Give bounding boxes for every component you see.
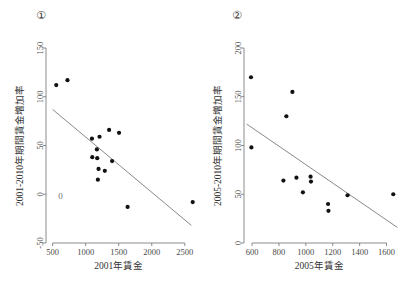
- y-tick-label: 0: [35, 192, 45, 196]
- y-tick-label: 50: [35, 141, 45, 150]
- y-tick-label: -50: [35, 237, 45, 248]
- data-point: [117, 131, 121, 135]
- data-point: [90, 137, 94, 141]
- data-point: [96, 178, 100, 182]
- data-point: [284, 114, 288, 118]
- data-point: [107, 128, 111, 132]
- data-point: [103, 169, 107, 173]
- x-tick-label: 500: [46, 247, 59, 257]
- scatter-plot-2: 05010015020060080010001200140016002005年賃…: [204, 0, 408, 291]
- y-tick-label: 200: [233, 42, 243, 55]
- figure-container: ① -5005010015050010001500200025002001年賃金…: [0, 0, 408, 291]
- y-axis-title: 2001-2010年期間賃金増加率: [14, 85, 25, 206]
- x-tick-label: 1600: [378, 247, 395, 257]
- data-point: [126, 205, 130, 209]
- plot-annotation: 0: [58, 191, 63, 201]
- y-axis-title: 2005-2010年期間賃金増加率: [212, 85, 223, 206]
- x-axis-title: 2001年賃金: [94, 260, 143, 271]
- data-point: [96, 167, 100, 171]
- data-point: [326, 209, 330, 213]
- chart-panel-2: ② 05010015020060080010001200140016002005…: [204, 0, 408, 291]
- x-tick-label: 1200: [324, 247, 341, 257]
- x-axis-title: 2005年賃金: [295, 260, 344, 271]
- data-point: [90, 155, 94, 159]
- y-tick-label: 100: [35, 90, 45, 103]
- scatter-plot-1: -5005010015050010001500200025002001年賃金20…: [0, 0, 204, 291]
- regression-line: [247, 124, 398, 227]
- data-point: [301, 190, 305, 194]
- regression-line: [53, 109, 192, 225]
- data-point: [54, 83, 58, 87]
- data-point: [326, 202, 330, 206]
- y-tick-label: 150: [233, 90, 243, 103]
- x-tick-label: 2000: [143, 247, 160, 257]
- data-point: [281, 179, 285, 183]
- chart-panel-1: ① -5005010015050010001500200025002001年賃金…: [0, 0, 204, 291]
- y-tick-label: 50: [233, 190, 243, 199]
- y-tick-label: 100: [233, 139, 243, 152]
- data-point: [95, 156, 99, 160]
- data-point: [249, 145, 253, 149]
- x-tick-label: 1400: [351, 247, 368, 257]
- data-point: [294, 176, 298, 180]
- data-point: [95, 147, 99, 151]
- data-point: [97, 135, 101, 139]
- y-tick-label: 150: [35, 42, 45, 55]
- data-point: [290, 90, 294, 94]
- data-point: [309, 179, 313, 183]
- data-point: [191, 200, 195, 204]
- x-tick-label: 800: [273, 247, 286, 257]
- data-point: [65, 78, 69, 82]
- x-tick-label: 600: [246, 247, 259, 257]
- x-tick-label: 1500: [110, 247, 127, 257]
- data-point: [110, 159, 114, 163]
- y-tick-label: 0: [233, 241, 243, 245]
- data-point: [345, 193, 349, 197]
- x-tick-label: 1000: [297, 247, 314, 257]
- x-tick-label: 1000: [77, 247, 94, 257]
- data-point: [308, 175, 312, 179]
- x-tick-label: 2500: [176, 247, 193, 257]
- data-point: [391, 192, 395, 196]
- data-point: [249, 75, 253, 79]
